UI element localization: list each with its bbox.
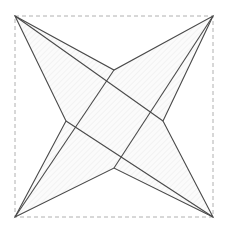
star-figure-canvas <box>0 0 228 232</box>
